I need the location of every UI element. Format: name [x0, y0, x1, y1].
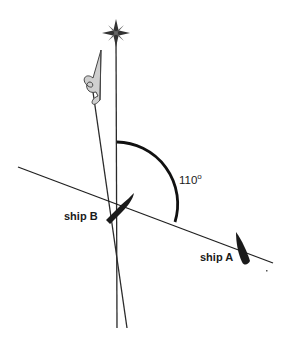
- compass-star-icon: [102, 19, 130, 47]
- ship-a-label: ship A: [200, 251, 233, 263]
- degree-symbol: o: [197, 172, 201, 181]
- angle-value: 110: [179, 174, 197, 186]
- angle-value-label: 110o: [179, 172, 202, 186]
- north-line-true: [116, 36, 117, 328]
- ship-a-icon: [236, 232, 250, 265]
- angle-arc: [117, 142, 178, 222]
- pennant-flag-icon: [84, 50, 101, 104]
- ship-b-label: ship B: [64, 210, 98, 222]
- speck-mark: [266, 270, 268, 272]
- bearing-line: [18, 167, 273, 263]
- bearing-diagram: [0, 0, 290, 338]
